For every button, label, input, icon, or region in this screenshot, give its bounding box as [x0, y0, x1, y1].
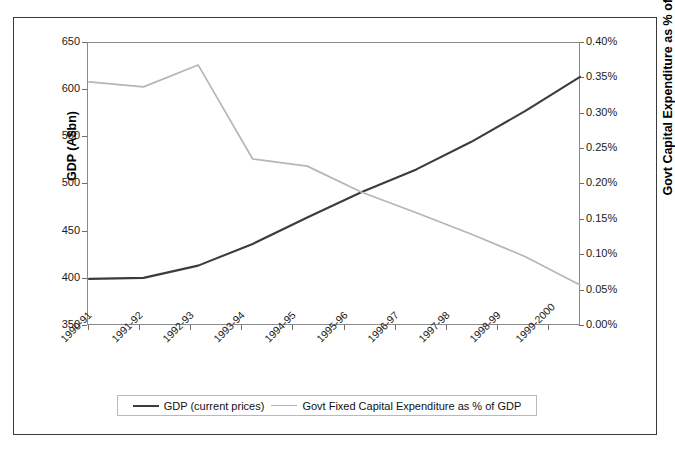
x-label-1990-91: 1990-91: [58, 309, 94, 345]
legend-label-govt-capex: Govt Fixed Capital Expenditure as % of G…: [302, 400, 521, 412]
x-label-1999-2000: 1999-2000: [513, 300, 557, 344]
x-label-1998-99: 1998-99: [467, 309, 503, 345]
x-label-1994-95: 1994-95: [262, 309, 298, 345]
legend-swatch-gdp-icon: [133, 405, 159, 407]
legend-item-govt-capex: Govt Fixed Capital Expenditure as % of G…: [271, 400, 521, 412]
x-label-1993-94: 1993-94: [211, 309, 247, 345]
legend-swatch-govt-capex-icon: [271, 405, 297, 407]
chart-legend: GDP (current prices) Govt Fixed Capital …: [117, 395, 537, 416]
x-label-1997-98: 1997-98: [416, 309, 452, 345]
legend-label-gdp: GDP (current prices): [164, 400, 265, 412]
x-label-1995-96: 1995-96: [314, 309, 350, 345]
x-label-1996-97: 1996-97: [365, 309, 401, 345]
x-label-1991-92: 1991-92: [109, 309, 145, 345]
legend-item-gdp: GDP (current prices): [133, 400, 265, 412]
x-label-1992-93: 1992-93: [160, 309, 196, 345]
